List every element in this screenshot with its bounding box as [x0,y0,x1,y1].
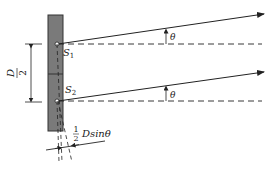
half-d-numerator: D [5,69,16,78]
s2-label: S2 [65,84,76,97]
half-d-denominator: 2 [18,70,28,76]
half-d-dimension: D 2 [5,44,42,102]
two-source-diagram: D 2 θ θ S1 S2 1 2 Dsinθ [0,0,277,171]
svg-text:2: 2 [73,134,78,143]
angle-marker-top: θ [166,31,176,44]
path-difference-label: 1 2 Dsinθ [73,125,111,143]
path-difference-text: Dsinθ [81,128,111,139]
ray-s2 [58,72,264,101]
theta-label-bottom: θ [170,90,176,100]
s1-label: S1 [63,47,74,60]
ray-s1 [58,14,264,44]
angle-marker-bottom: θ [166,88,176,101]
screen-panel [48,15,63,131]
svg-text:1: 1 [73,125,78,134]
path-difference-arrow-left [55,148,60,149]
theta-label-top: θ [170,32,176,42]
